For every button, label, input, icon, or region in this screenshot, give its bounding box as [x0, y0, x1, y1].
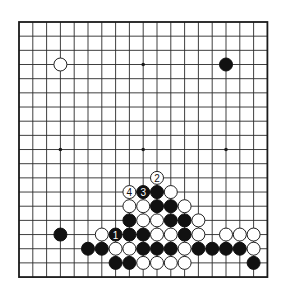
white-stone [151, 214, 164, 227]
white-stone [192, 214, 205, 227]
black-stone-icon [206, 242, 219, 255]
white-stone [247, 228, 260, 241]
white-stone [123, 200, 136, 213]
black-stone [54, 228, 67, 241]
black-stone-icon [82, 242, 95, 255]
move-number-label: 1 [113, 230, 119, 241]
black-stone [220, 58, 233, 71]
black-stone-icon [233, 242, 246, 255]
black-stone-icon [192, 242, 205, 255]
white-stone-icon [164, 228, 177, 241]
white-stone-move-2: 2 [151, 171, 164, 184]
black-stone-move-1: 1 [109, 228, 122, 241]
white-stone [95, 228, 108, 241]
black-stone-icon [164, 242, 177, 255]
black-stone [178, 214, 191, 227]
black-stone [220, 242, 233, 255]
white-stone-icon [123, 242, 136, 255]
white-stone-icon [164, 186, 177, 199]
move-number-label: 3 [140, 187, 146, 198]
white-stone-icon [123, 200, 136, 213]
white-stone [151, 256, 164, 269]
white-stone [164, 256, 177, 269]
white-stone-icon [192, 214, 205, 227]
black-stone-icon [247, 256, 260, 269]
white-stone-icon [137, 256, 150, 269]
black-stone-icon [178, 214, 191, 227]
white-stone-icon [247, 242, 260, 255]
white-stone [137, 256, 150, 269]
black-stone [109, 256, 122, 269]
black-stone-icon [123, 256, 136, 269]
white-stone-icon [151, 228, 164, 241]
move-number-label: 2 [154, 173, 160, 184]
black-stone-icon [164, 200, 177, 213]
black-stone-icon [123, 228, 136, 241]
black-stone-icon [151, 186, 164, 199]
black-stone-icon [151, 242, 164, 255]
white-stone [123, 242, 136, 255]
black-stone-icon [95, 242, 108, 255]
white-stone-icon [178, 200, 191, 213]
black-stone-icon [151, 200, 164, 213]
white-stone [137, 214, 150, 227]
star-point [224, 148, 228, 152]
star-point [59, 148, 63, 152]
black-stone-icon [178, 228, 191, 241]
white-stone [164, 228, 177, 241]
white-stone [109, 242, 122, 255]
black-stone [178, 228, 191, 241]
black-stone [151, 200, 164, 213]
white-stone [178, 242, 191, 255]
black-stone [137, 228, 150, 241]
white-stone-icon [192, 228, 205, 241]
black-stone-icon [220, 58, 233, 71]
black-stone [206, 242, 219, 255]
white-stone-icon [54, 58, 67, 71]
white-stone-icon [95, 228, 108, 241]
go-board-diagram: 2431 [0, 0, 283, 297]
black-stone [82, 242, 95, 255]
black-stone [137, 242, 150, 255]
white-stone [54, 58, 67, 71]
black-stone [192, 242, 205, 255]
black-stone [151, 242, 164, 255]
black-stone [233, 242, 246, 255]
white-stone [220, 228, 233, 241]
black-stone [164, 200, 177, 213]
white-stone-icon [137, 200, 150, 213]
white-stone-icon [247, 228, 260, 241]
black-stone [123, 256, 136, 269]
black-stone [95, 242, 108, 255]
white-stone-icon [233, 228, 246, 241]
white-stone-icon [220, 228, 233, 241]
black-stone-icon [109, 256, 122, 269]
move-number-label: 4 [127, 187, 133, 198]
black-stone-move-3: 3 [137, 186, 150, 199]
black-stone [123, 228, 136, 241]
white-stone [192, 228, 205, 241]
white-stone-icon [151, 256, 164, 269]
black-stone-icon [164, 214, 177, 227]
white-stone-icon [178, 256, 191, 269]
white-stone [178, 256, 191, 269]
black-stone-icon [137, 242, 150, 255]
white-stone [247, 242, 260, 255]
black-stone-icon [123, 214, 136, 227]
white-stone-icon [151, 214, 164, 227]
black-stone [123, 214, 136, 227]
black-stone [151, 186, 164, 199]
white-stone-icon [164, 256, 177, 269]
star-point [141, 148, 145, 152]
white-stone-icon [137, 214, 150, 227]
white-stone [233, 228, 246, 241]
white-stone [164, 186, 177, 199]
black-stone [164, 214, 177, 227]
go-board: 2431 [0, 0, 283, 297]
white-stone-move-4: 4 [123, 186, 136, 199]
black-stone [164, 242, 177, 255]
white-stone [178, 200, 191, 213]
white-stone [151, 228, 164, 241]
black-stone [247, 256, 260, 269]
white-stone-icon [178, 242, 191, 255]
